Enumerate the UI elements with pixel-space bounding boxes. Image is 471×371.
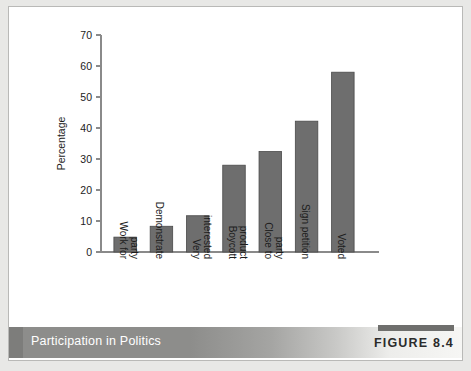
x-axis-category-label: product xyxy=(238,226,249,260)
x-axis-category-label: Very xyxy=(191,239,202,259)
x-axis-category-label: Sign petition xyxy=(300,204,311,259)
x-axis-category-label: interested xyxy=(202,215,213,259)
x-axis-category-label: party xyxy=(129,237,140,259)
y-axis-tick-label: 10 xyxy=(80,215,92,227)
y-axis-tick-label: 0 xyxy=(86,246,92,258)
figure-caption: Participation in Politics xyxy=(31,334,161,348)
figure-number-tab xyxy=(378,325,454,331)
figure-number-label: FIGURE 8.4 xyxy=(374,336,454,350)
x-axis-category-label: Boycott xyxy=(227,226,238,260)
y-axis-tick-label: 30 xyxy=(80,153,92,165)
x-axis-category-label: Close to xyxy=(263,222,274,259)
bar xyxy=(332,72,354,252)
y-axis-tick-label: 50 xyxy=(80,91,92,103)
x-axis-category-label: Voted xyxy=(336,233,347,259)
y-axis-tick-label: 70 xyxy=(80,29,92,41)
y-axis-tick-label: 40 xyxy=(80,122,92,134)
y-axis-tick-label: 60 xyxy=(80,60,92,72)
y-axis-tick-label: 20 xyxy=(80,184,92,196)
chart-plot-area: 010203040506070PercentageWork forpartyDe… xyxy=(9,7,462,325)
figure-card: 010203040506070PercentageWork forpartyDe… xyxy=(8,6,463,361)
x-axis-category-label: party xyxy=(274,237,285,259)
x-axis-category-label: Demonstrate xyxy=(154,202,165,260)
footer-left-notch xyxy=(9,327,23,358)
figure-footer: Participation in Politics FIGURE 8.4 xyxy=(9,325,462,360)
bar-chart-svg: 010203040506070PercentageWork forpartyDe… xyxy=(9,7,462,325)
x-axis-category-label: Work for xyxy=(118,221,129,259)
y-axis-title: Percentage xyxy=(55,116,67,170)
